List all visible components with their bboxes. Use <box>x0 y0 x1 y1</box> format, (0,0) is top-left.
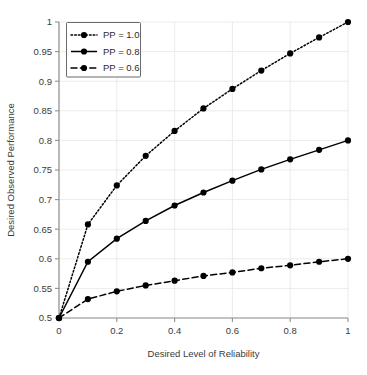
line-chart: 0.50.550.60.650.70.750.80.850.90.951 00.… <box>0 0 367 375</box>
chart-figure: 0.50.550.60.650.70.750.80.850.90.951 00.… <box>0 0 367 375</box>
y-tick-label: 0.55 <box>34 283 53 294</box>
data-point <box>85 296 91 302</box>
x-tick-label: 1 <box>345 325 350 336</box>
data-point <box>316 147 322 153</box>
data-point <box>172 128 178 134</box>
y-tick-label: 0.95 <box>34 46 53 57</box>
legend-swatch-marker <box>81 32 87 38</box>
data-point <box>114 182 120 188</box>
data-point <box>143 218 149 224</box>
figure-background <box>0 0 367 375</box>
y-tick-label: 1 <box>47 16 52 27</box>
x-axis-title: Desired Level of Reliability <box>148 348 260 359</box>
data-point <box>345 19 351 25</box>
data-point <box>85 259 91 265</box>
data-point <box>258 265 264 271</box>
data-point <box>172 278 178 284</box>
y-tick-label: 0.9 <box>39 76 52 87</box>
data-point <box>287 262 293 268</box>
legend-item-label: PP = 0.6 <box>103 62 140 73</box>
data-point <box>85 221 91 227</box>
x-tick-label: 0.8 <box>284 325 297 336</box>
data-point <box>200 189 206 195</box>
chart-legend: PP = 1.0PP = 0.8PP = 0.6 <box>67 23 141 78</box>
y-axis-title: Desired Observed Performance <box>5 103 16 237</box>
data-point <box>200 273 206 279</box>
data-point <box>229 269 235 275</box>
legend-item-label: PP = 0.8 <box>103 46 140 57</box>
legend-swatch-marker <box>81 65 87 71</box>
x-tick-label: 0 <box>56 325 61 336</box>
data-point <box>258 67 264 73</box>
x-tick-label: 0.4 <box>168 325 181 336</box>
data-point <box>114 236 120 242</box>
y-tick-label: 0.75 <box>34 164 53 175</box>
data-point <box>114 288 120 294</box>
legend-swatch-marker <box>81 48 87 54</box>
y-tick-label: 0.8 <box>39 135 52 146</box>
legend-item-label: PP = 1.0 <box>103 29 140 40</box>
data-point <box>229 178 235 184</box>
data-point <box>287 156 293 162</box>
y-tick-label: 0.5 <box>39 312 52 323</box>
y-tick-label: 0.6 <box>39 253 52 264</box>
x-tick-label: 0.2 <box>110 325 123 336</box>
data-point <box>258 166 264 172</box>
data-point <box>56 315 62 321</box>
data-point <box>316 34 322 40</box>
data-point <box>172 202 178 208</box>
data-point <box>316 259 322 265</box>
data-point <box>287 50 293 56</box>
y-tick-label: 0.65 <box>34 224 53 235</box>
y-tick-label: 0.85 <box>34 105 53 116</box>
data-point <box>345 137 351 143</box>
data-point <box>143 282 149 288</box>
legend-entries: PP = 1.0PP = 0.8PP = 0.6 <box>71 29 140 73</box>
data-point <box>143 153 149 159</box>
data-point <box>200 105 206 111</box>
x-tick-label: 0.6 <box>226 325 239 336</box>
y-tick-label: 0.7 <box>39 194 52 205</box>
data-point <box>229 86 235 92</box>
data-point <box>345 256 351 262</box>
